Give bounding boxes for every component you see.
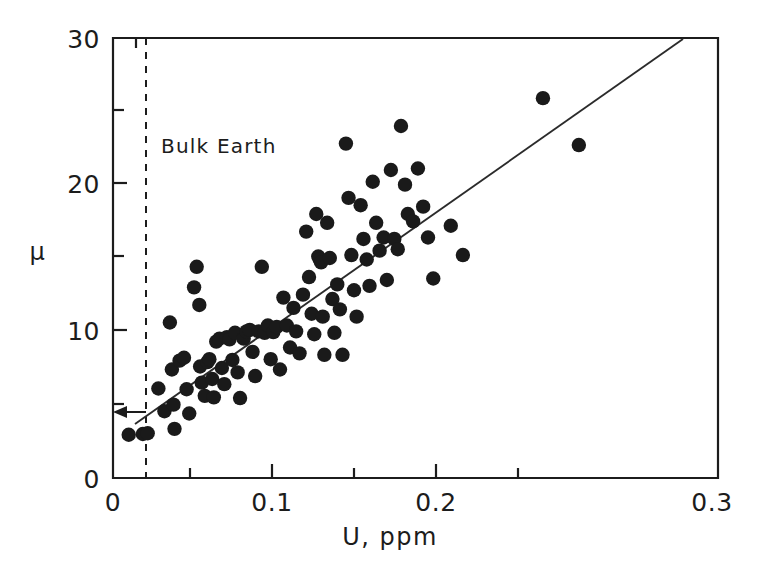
- data-point: [189, 260, 203, 274]
- frame-border: [113, 38, 718, 478]
- data-point: [276, 290, 290, 304]
- data-point: [456, 248, 470, 262]
- data-point: [339, 136, 353, 150]
- data-point: [444, 219, 458, 233]
- bulk-earth-label: Bulk Earth: [161, 134, 277, 158]
- data-point: [335, 348, 349, 362]
- data-point: [384, 163, 398, 177]
- data-point: [182, 406, 196, 420]
- data-point: [341, 191, 355, 205]
- x-tick-label-0.2: 0.2: [415, 488, 456, 517]
- data-point: [187, 280, 201, 294]
- plot-frame: [113, 38, 718, 478]
- data-point: [166, 397, 180, 411]
- data-point: [151, 381, 165, 395]
- data-point: [299, 224, 313, 238]
- data-point: [380, 273, 394, 287]
- data-point: [416, 199, 430, 213]
- data-point: [177, 351, 191, 365]
- data-point: [302, 270, 316, 284]
- data-point: [289, 324, 303, 338]
- data-point: [163, 315, 177, 329]
- data-point: [316, 309, 330, 323]
- data-point: [353, 198, 367, 212]
- data-point: [391, 242, 405, 256]
- x-tick-label-0.1: 0.1: [251, 488, 292, 517]
- data-point: [140, 426, 154, 440]
- data-point: [255, 260, 269, 274]
- data-point: [202, 352, 216, 366]
- data-point: [292, 346, 306, 360]
- data-point: [369, 216, 383, 230]
- data-point: [233, 391, 247, 405]
- data-point: [307, 327, 321, 341]
- data-point: [230, 365, 244, 379]
- data-point: [362, 279, 376, 293]
- data-point: [347, 283, 361, 297]
- x-axis-label: U, ppm: [342, 523, 438, 551]
- data-point: [394, 119, 408, 133]
- data-point: [225, 353, 239, 367]
- data-point: [323, 251, 337, 265]
- arrow-head: [113, 406, 127, 418]
- data-point: [320, 216, 334, 230]
- y-tick-label-20: 20: [67, 170, 100, 199]
- data-point: [273, 362, 287, 376]
- data-point: [344, 248, 358, 262]
- data-point: [536, 91, 550, 105]
- y-axis-label: μ: [30, 238, 47, 266]
- data-point: [192, 298, 206, 312]
- y-axis-ticks: [113, 110, 127, 404]
- data-point: [248, 369, 262, 383]
- scatter-plot: 30 20 10 0 0 0.1 0.2 0.3 μ U, ppm Bulk E…: [0, 0, 762, 571]
- data-point: [286, 301, 300, 315]
- data-point: [122, 428, 136, 442]
- y-tick-label-30: 30: [67, 25, 100, 54]
- data-point: [245, 345, 259, 359]
- data-point: [330, 277, 344, 291]
- data-point: [356, 232, 370, 246]
- data-point: [217, 377, 231, 391]
- data-point: [207, 390, 221, 404]
- figure-container: 30 20 10 0 0 0.1 0.2 0.3 μ U, ppm Bulk E…: [0, 0, 762, 571]
- data-point: [179, 382, 193, 396]
- bulk-earth-arrow: [113, 406, 146, 418]
- data-point: [406, 214, 420, 228]
- data-point: [360, 252, 374, 266]
- data-point: [167, 422, 181, 436]
- x-tick-label-0.3: 0.3: [691, 488, 732, 517]
- data-point: [327, 326, 341, 340]
- data-point: [421, 230, 435, 244]
- data-point: [411, 161, 425, 175]
- x-tick-label-0: 0: [105, 488, 121, 517]
- data-point: [366, 175, 380, 189]
- y-tick-label-10: 10: [67, 317, 100, 346]
- data-point: [296, 287, 310, 301]
- data-point: [572, 138, 586, 152]
- data-point: [398, 177, 412, 191]
- data-point: [349, 309, 363, 323]
- y-tick-label-0: 0: [84, 465, 100, 494]
- data-point: [372, 243, 386, 257]
- data-point: [333, 302, 347, 316]
- data-point: [426, 271, 440, 285]
- data-point: [317, 348, 331, 362]
